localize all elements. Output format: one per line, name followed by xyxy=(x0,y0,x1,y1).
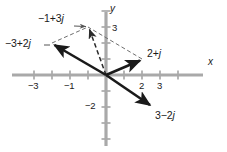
y-tick-label-minus-2: −2 xyxy=(85,101,95,111)
complex-plane-figure: x y −3 −1 2 3 3 −2 −1+3j −3+2j 2+j 3−2j xyxy=(0,0,227,152)
vector-label-3-minus-2j: 3−2j xyxy=(155,110,175,121)
vector-2-plus-j xyxy=(106,61,140,76)
vector-label-minus-1-plus-3j: −1+3j xyxy=(38,13,64,24)
x-tick-label-3: 3 xyxy=(157,81,162,91)
parallelogram-edge-a xyxy=(52,27,88,43)
x-tick-label-2: 2 xyxy=(139,81,144,91)
construction-lines xyxy=(52,27,142,59)
x-tick-label-minus-1: −1 xyxy=(64,81,74,91)
vector-label-minus-3-plus-2j: −3+2j xyxy=(5,38,31,49)
label-leader-minus-1-plus-3j xyxy=(74,26,86,27)
x-axis-label: x xyxy=(208,57,213,67)
y-tick-label-3: 3 xyxy=(112,23,117,33)
x-tick-label-minus-3: −3 xyxy=(28,81,38,91)
vector-minus-3-plus-2j xyxy=(55,45,107,75)
y-axis-label: y xyxy=(110,4,115,14)
vector-label-2-plus-j: 2+j xyxy=(147,48,161,59)
